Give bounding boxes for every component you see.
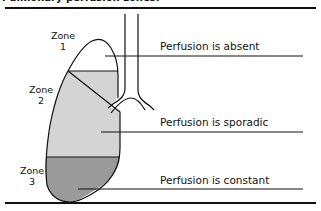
zone-3-description: Perfusion is constant bbox=[160, 175, 269, 186]
zone-1-description: Perfusion is absent bbox=[160, 41, 259, 52]
zone-2-region bbox=[46, 71, 120, 157]
zone-2-label: Zone 2 bbox=[28, 84, 54, 106]
zone-2-description: Perfusion is sporadic bbox=[160, 117, 268, 128]
zone-1-label: Zone 1 bbox=[50, 30, 76, 52]
trachea-right bbox=[138, 14, 154, 110]
zone-3-label: Zone 3 bbox=[19, 165, 45, 187]
